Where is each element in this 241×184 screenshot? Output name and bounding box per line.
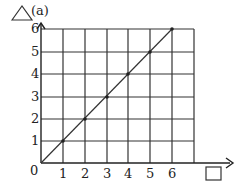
figure-label: (a) xyxy=(31,4,49,17)
x-tick-5: 5 xyxy=(146,167,154,180)
x-tick-2: 2 xyxy=(81,167,89,180)
origin-label: 0 xyxy=(30,164,38,177)
axes xyxy=(37,23,233,168)
triangle-icon xyxy=(12,6,32,20)
square-box-icon xyxy=(206,167,221,180)
grid-lines xyxy=(41,29,194,163)
x-tick-1: 1 xyxy=(59,167,67,180)
x-tick-3: 3 xyxy=(103,167,111,180)
x-tick-4: 4 xyxy=(124,167,132,180)
y-tick-3: 3 xyxy=(31,90,39,103)
y-tick-5: 5 xyxy=(31,45,39,58)
x-tick-6: 6 xyxy=(168,167,176,180)
y-tick-6: 6 xyxy=(31,22,39,35)
y-tick-2: 2 xyxy=(31,112,39,125)
y-tick-1: 1 xyxy=(31,134,39,147)
y-tick-4: 4 xyxy=(31,67,39,80)
